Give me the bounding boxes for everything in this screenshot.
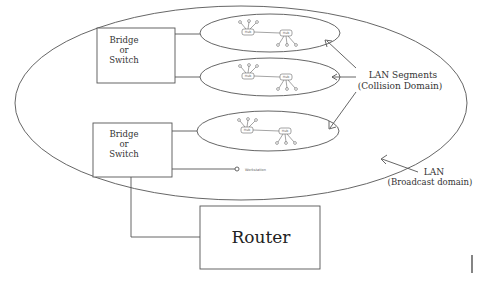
- lan-broadcast-domain-ellipse: [15, 6, 467, 200]
- bridge-1-label-line3: Switch: [109, 55, 139, 65]
- router-label: Router: [231, 227, 291, 247]
- bridge-2-label-line3: Switch: [109, 149, 139, 159]
- hub-label: Hub: [245, 74, 251, 78]
- bridge-1-label-line2: or: [119, 45, 129, 55]
- arrow-to-segment-1: [327, 41, 356, 68]
- broadcast-domain-label: (Broadcast domain): [388, 177, 473, 187]
- arrow-to-lan-ellipse: [382, 159, 418, 172]
- bridge-2-label-line2: or: [119, 139, 129, 149]
- lan-segment-ellipse-2: [200, 58, 340, 96]
- hub-label: Hub: [245, 30, 251, 34]
- hub-label: Hub: [283, 31, 289, 35]
- hub-label: Hub: [244, 128, 250, 132]
- lan-label: LAN: [424, 167, 444, 177]
- lan-segment-ellipse-1: [200, 14, 340, 52]
- collision-domain-label: (Collision Domain): [358, 81, 443, 91]
- workstation-node-icon: [235, 167, 239, 171]
- arrow-to-segment-3: [330, 92, 356, 128]
- hub-label: Hub: [283, 75, 289, 79]
- link-bridge2-router: [131, 177, 200, 237]
- workstation-label: Workstation: [245, 168, 266, 172]
- lan-segments-label: LAN Segments: [369, 70, 438, 80]
- bridge-1-label-line1: Bridge: [110, 35, 139, 45]
- network-diagram: Hub Hub Hub Hub Hub Hub Bridge or Switch…: [0, 0, 481, 286]
- hub-label: Hub: [282, 129, 288, 133]
- lan-segment-ellipse-3: [197, 111, 339, 151]
- bridge-2-label-line1: Bridge: [110, 129, 139, 139]
